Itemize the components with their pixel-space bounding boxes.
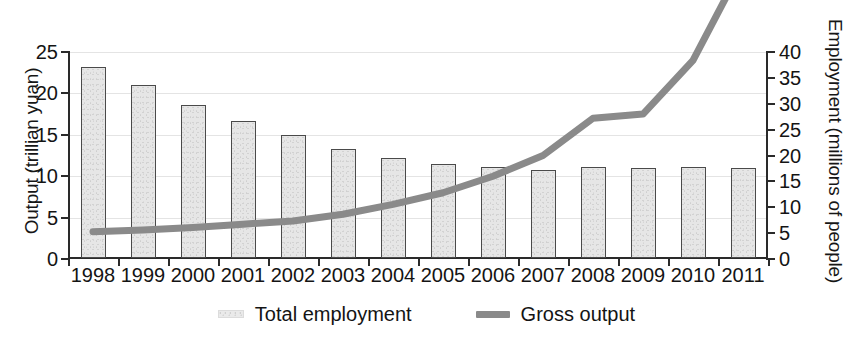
left-axis-tick-label: 25: [36, 42, 58, 62]
bar-swatch-icon: [218, 310, 244, 318]
x-axis-label: 2011: [721, 264, 764, 286]
legend-label-gross-output: Gross output: [521, 304, 636, 324]
left-axis-tick: [61, 217, 68, 219]
right-axis-tick-label: 0: [779, 249, 790, 269]
x-axis-label: 2004: [371, 264, 416, 286]
x-axis-tick: [518, 259, 520, 266]
x-axis-label: 2006: [471, 264, 516, 286]
x-axis-tick: [68, 259, 70, 266]
right-axis-tick-label: 25: [779, 120, 801, 140]
right-axis-tick: [768, 51, 775, 53]
right-axis-tick-label: 20: [779, 146, 801, 166]
left-axis-tick: [61, 51, 68, 53]
right-axis-tick-label: 40: [779, 42, 801, 62]
left-axis-tick-label: 20: [36, 83, 58, 103]
right-axis-tick: [768, 129, 775, 131]
legend-label-total-employment: Total employment: [255, 304, 412, 324]
x-axis-tick: [418, 259, 420, 266]
x-axis-tick: [768, 259, 770, 266]
x-axis-label: 2010: [671, 264, 716, 286]
x-axis-label: 2008: [571, 264, 616, 286]
right-axis-tick-label: 15: [779, 171, 801, 191]
left-axis-tick-label: 5: [47, 208, 58, 228]
x-axis-tick: [168, 259, 170, 266]
right-axis-tick: [768, 206, 775, 208]
right-axis-tick: [768, 180, 775, 182]
x-axis-label: 1999: [121, 264, 166, 286]
x-axis-tick: [668, 259, 670, 266]
left-axis-tick: [61, 134, 68, 136]
x-axis-label: 2002: [271, 264, 316, 286]
x-axis-tick: [468, 259, 470, 266]
x-axis-label: 2003: [321, 264, 366, 286]
left-axis-tick-label: 0: [47, 249, 58, 269]
x-axis-label: 2000: [171, 264, 216, 286]
left-axis-tick: [61, 258, 68, 260]
left-axis-tick: [61, 92, 68, 94]
line-swatch-icon: [476, 311, 510, 318]
x-axis-tick: [618, 259, 620, 266]
x-axis-tick: [268, 259, 270, 266]
right-axis-title: Employment (millions of people): [824, 6, 846, 296]
right-axis-tick-label: 5: [779, 223, 790, 243]
line-series-gross-output: [68, 52, 768, 259]
x-axis-label: 2001: [221, 264, 266, 286]
plot-area: 0510152025 0510152025303540 199819992000…: [68, 52, 768, 259]
x-axis-tick: [368, 259, 370, 266]
right-axis-tick: [768, 103, 775, 105]
right-axis-tick-label: 30: [779, 94, 801, 114]
right-axis-tick: [768, 155, 775, 157]
x-axis-tick: [118, 259, 120, 266]
chart-figure: Output (trillian yuan) Employment (milli…: [0, 0, 853, 338]
x-axis-label: 2005: [421, 264, 466, 286]
left-axis-tick-label: 10: [36, 166, 58, 186]
right-axis-tick: [768, 232, 775, 234]
right-axis-tick-label: 35: [779, 68, 801, 88]
x-axis-label: 2007: [521, 264, 566, 286]
left-axis-tick-label: 15: [36, 125, 58, 145]
left-axis-tick: [61, 175, 68, 177]
x-axis-tick: [718, 259, 720, 266]
chart-legend: Total employment Gross output: [0, 304, 853, 324]
x-axis-label: 2009: [621, 264, 666, 286]
x-axis-label: 1998: [71, 264, 116, 286]
x-axis-tick: [318, 259, 320, 266]
x-axis-tick: [568, 259, 570, 266]
legend-item-gross-output: Gross output: [476, 304, 636, 324]
x-axis-tick: [218, 259, 220, 266]
right-axis-tick: [768, 77, 775, 79]
legend-item-total-employment: Total employment: [218, 304, 412, 324]
right-axis-tick-label: 10: [779, 197, 801, 217]
